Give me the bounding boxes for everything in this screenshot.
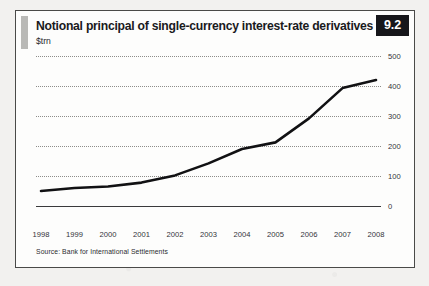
y-tick-label: 500 [388, 52, 401, 61]
figure-number-badge: 9.2 [376, 15, 409, 36]
x-tick-label: 2007 [334, 230, 351, 239]
chart-title: Notional principal of single-currency in… [36, 19, 366, 33]
source-note: Source: Bank for International Settlemen… [36, 248, 168, 255]
accent-bar [21, 16, 28, 49]
series-line [36, 56, 381, 206]
x-tick-label: 2002 [167, 230, 184, 239]
x-tick-label: 2001 [133, 230, 150, 239]
y-tick-label: 100 [388, 172, 401, 181]
x-tick-label: 2006 [301, 230, 318, 239]
y-tick-label: 200 [388, 142, 401, 151]
y-tick-label: 400 [388, 82, 401, 91]
x-axis-line [36, 206, 381, 207]
x-tick-label: 2000 [100, 230, 117, 239]
x-tick-label: 1998 [33, 230, 50, 239]
x-axis-tick-labels: 1998199920002001200220032004200520062007… [36, 230, 381, 242]
y-axis-unit-label: $trn [36, 36, 51, 46]
x-tick-label: 2004 [234, 230, 251, 239]
y-tick-label: 300 [388, 112, 401, 121]
figure-panel: 9.2 Notional principal of single-currenc… [15, 10, 415, 268]
x-tick-label: 1999 [66, 230, 83, 239]
x-tick-label: 2008 [368, 230, 385, 239]
x-tick-label: 2003 [200, 230, 217, 239]
plot-area: 0100200300400500 [36, 56, 381, 206]
y-tick-label: 0 [388, 202, 392, 211]
x-tick-label: 2005 [267, 230, 284, 239]
